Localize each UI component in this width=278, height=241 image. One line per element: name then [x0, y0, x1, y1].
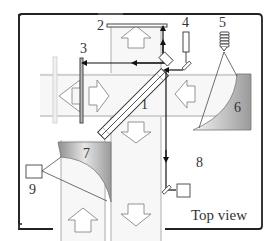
mirror-3	[80, 58, 83, 123]
small-mirror-4	[182, 61, 191, 70]
label-1: 1	[141, 98, 148, 112]
light-source-4	[183, 32, 189, 52]
optical-setup-diagram	[0, 0, 278, 241]
label-6: 6	[234, 101, 241, 115]
coil-5	[220, 32, 229, 51]
label-8: 8	[196, 156, 203, 170]
top-view-caption: Top view	[191, 207, 247, 223]
label-9: 9	[29, 183, 36, 197]
label-7: 7	[83, 147, 90, 161]
label-2: 2	[97, 19, 104, 33]
label-3: 3	[80, 42, 87, 56]
label-5: 5	[219, 16, 226, 30]
mirror-2	[107, 24, 167, 27]
faded-mirror	[53, 57, 57, 123]
label-4: 4	[182, 16, 189, 30]
detector-9	[26, 165, 42, 178]
detector-8	[177, 184, 190, 197]
